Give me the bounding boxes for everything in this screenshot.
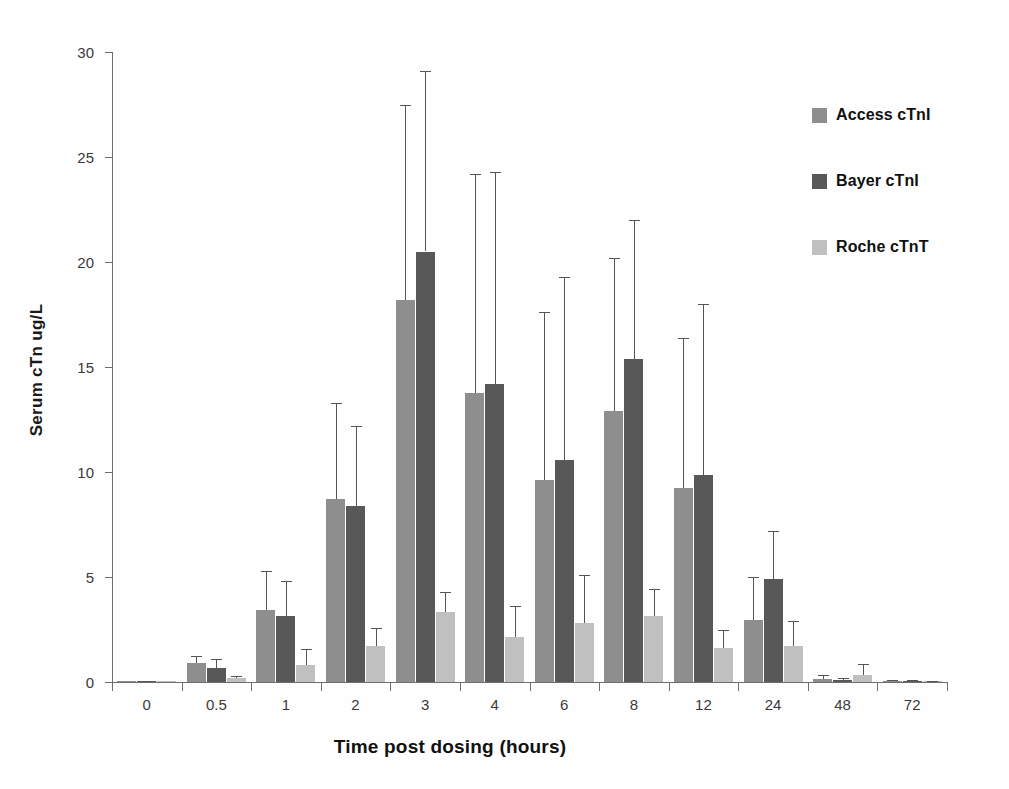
bar-roche-ctnt-48 <box>853 675 872 682</box>
x-tick-mark <box>112 683 113 691</box>
error-bar-cap <box>748 577 759 578</box>
error-bar-cap <box>470 174 481 175</box>
error-bar-cap <box>887 680 898 681</box>
y-tick-label: 25 <box>77 149 94 166</box>
chart-figure: Serum cTn ug/L 051015202530 00.512346812… <box>0 0 1009 789</box>
error-bar-line <box>475 174 476 393</box>
error-bar-line <box>863 664 864 675</box>
error-bar-line <box>773 531 774 579</box>
error-bar-cap <box>261 571 272 572</box>
bar-bayer-ctni-12 <box>694 475 713 682</box>
bar-access-ctni-4 <box>465 393 484 682</box>
y-axis-line <box>112 52 113 683</box>
bar-access-ctni-0.5 <box>187 663 206 682</box>
x-tick-label: 6 <box>560 696 568 713</box>
y-tick-label: 5 <box>86 569 94 586</box>
legend-item-roche-ctnt[interactable]: Roche cTnT <box>812 236 1002 258</box>
bar-access-ctni-48 <box>813 679 832 682</box>
bar-bayer-ctni-4 <box>485 384 504 682</box>
error-bar-cap <box>191 656 202 657</box>
y-tick-mark <box>105 367 112 368</box>
bar-roche-ctnt-1 <box>296 665 315 682</box>
error-bar-cap <box>579 575 590 576</box>
error-bar-cap <box>629 220 640 221</box>
bar-access-ctni-12 <box>674 488 693 682</box>
bar-access-ctni-1 <box>256 610 275 682</box>
bar-access-ctni-24 <box>744 620 763 682</box>
bar-bayer-ctni-1 <box>276 616 295 682</box>
legend-swatch-icon <box>812 108 827 123</box>
bar-bayer-ctni-3 <box>416 252 435 683</box>
error-bar-line <box>683 338 684 488</box>
error-bar-line <box>266 571 267 610</box>
error-bar-line <box>703 304 704 475</box>
bar-bayer-ctni-0.5 <box>207 668 226 682</box>
error-bar-cap <box>539 312 550 313</box>
bar-bayer-ctni-6 <box>555 460 574 682</box>
error-bar-cap <box>371 628 382 629</box>
error-bar-cap <box>678 338 689 339</box>
bar-roche-ctnt-0.5 <box>227 678 246 682</box>
bar-roche-ctnt-8 <box>644 616 663 682</box>
error-bar-line <box>515 606 516 636</box>
legend-item-bayer-ctni[interactable]: Bayer cTnI <box>812 170 1002 192</box>
error-bar-line <box>793 621 794 646</box>
y-tick-mark <box>105 52 112 53</box>
x-tick-label: 0 <box>143 696 151 713</box>
error-bar-line <box>634 220 635 359</box>
y-tick-label: 10 <box>77 464 94 481</box>
bar-bayer-ctni-0 <box>137 681 156 682</box>
error-bar-line <box>286 581 287 616</box>
y-tick-mark <box>105 682 112 683</box>
error-bar-line <box>196 656 197 663</box>
x-tick-mark <box>738 683 739 691</box>
legend-label: Roche cTnT <box>836 238 929 256</box>
y-tick-mark <box>105 157 112 158</box>
x-tick-label: 48 <box>834 696 851 713</box>
legend-swatch-icon <box>812 240 827 255</box>
error-bar-cap <box>698 304 709 305</box>
x-tick-mark <box>530 683 531 691</box>
x-tick-label: 4 <box>491 696 499 713</box>
bar-roche-ctnt-0 <box>157 681 176 682</box>
error-bar-cap <box>301 649 312 650</box>
error-bar-line <box>564 277 565 461</box>
x-tick-label: 24 <box>765 696 782 713</box>
error-bar-line <box>405 105 406 300</box>
bar-roche-ctnt-6 <box>575 623 594 682</box>
x-tick-label: 8 <box>630 696 638 713</box>
error-bar-line <box>425 71 426 252</box>
error-bar-line <box>445 592 446 612</box>
x-tick-label: 3 <box>421 696 429 713</box>
y-tick-mark <box>105 262 112 263</box>
legend-label: Access cTnI <box>836 106 930 124</box>
x-tick-mark <box>182 683 183 691</box>
error-bar-cap <box>400 105 411 106</box>
x-tick-mark <box>669 683 670 691</box>
x-axis-title: Time post dosing (hours) <box>120 736 780 758</box>
error-bar-line <box>614 258 615 411</box>
x-tick-label: 0.5 <box>206 696 227 713</box>
bar-roche-ctnt-2 <box>366 646 385 682</box>
legend-item-access-ctni[interactable]: Access cTnI <box>812 104 1002 126</box>
bar-bayer-ctni-48 <box>833 680 852 682</box>
x-tick-label: 72 <box>904 696 921 713</box>
error-bar-cap <box>788 621 799 622</box>
error-bar-cap <box>559 277 570 278</box>
y-tick-label: 15 <box>77 359 94 376</box>
bar-access-ctni-6 <box>535 480 554 682</box>
x-tick-mark <box>460 683 461 691</box>
error-bar-cap <box>420 71 431 72</box>
x-tick-mark <box>390 683 391 691</box>
chart-legend: Access cTnIBayer cTnIRoche cTnT <box>812 104 1002 302</box>
y-tick-label: 20 <box>77 254 94 271</box>
legend-label: Bayer cTnI <box>836 172 919 190</box>
error-bar-line <box>654 589 655 616</box>
bar-roche-ctnt-24 <box>784 646 803 682</box>
y-tick-label: 30 <box>77 44 94 61</box>
error-bar-line <box>584 575 585 623</box>
error-bar-cap <box>211 659 222 660</box>
error-bar-line <box>723 630 724 649</box>
y-tick-mark <box>105 577 112 578</box>
x-tick-mark <box>808 683 809 691</box>
